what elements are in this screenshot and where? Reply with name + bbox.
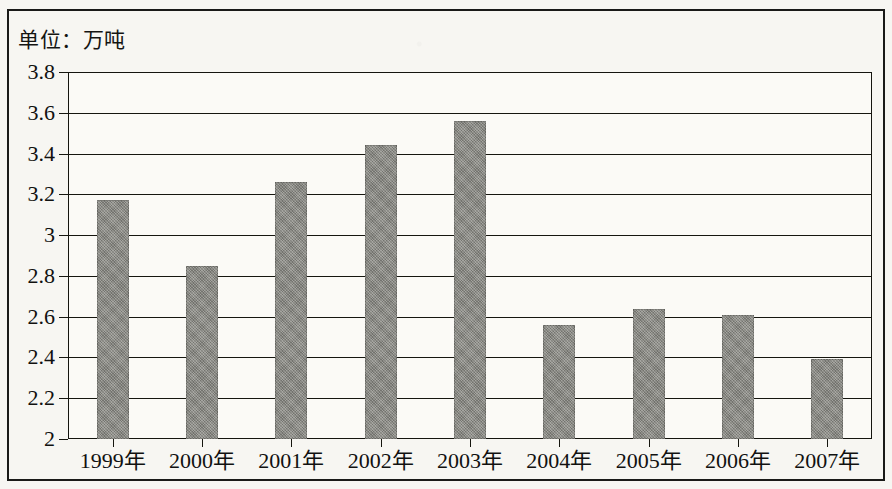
y-axis-label: 2	[44, 428, 55, 450]
x-axis-label: 2004年	[526, 447, 592, 475]
bar	[275, 182, 307, 439]
x-axis-label: 1999年	[80, 447, 146, 475]
x-axis-labels: 1999年2000年2001年2002年2003年2004年2005年2006年…	[68, 447, 872, 481]
x-axis-label: 2007年	[794, 447, 860, 475]
y-axis-label: 3.2	[28, 183, 56, 205]
bar	[186, 266, 218, 439]
y-axis-label: 2.8	[28, 265, 56, 287]
bar-chart-figure: 单位：万吨 3.83.63.43.232.82.62.42.22 1999年20…	[0, 0, 892, 489]
x-axis-tick	[113, 439, 114, 447]
y-axis-tick	[59, 72, 68, 73]
x-axis-tick	[559, 439, 560, 447]
bar	[543, 325, 575, 439]
y-axis-label: 2.6	[28, 306, 56, 328]
bar	[365, 145, 397, 439]
x-axis-tick	[202, 439, 203, 447]
x-axis-tick	[291, 439, 292, 447]
x-axis-tick	[649, 439, 650, 447]
y-axis-tick	[59, 317, 68, 318]
y-axis-tick	[59, 194, 68, 195]
bar	[633, 309, 665, 439]
x-axis-label: 2006年	[705, 447, 771, 475]
y-axis-tick	[59, 235, 68, 236]
bar	[811, 359, 843, 439]
x-axis-label: 2003年	[437, 447, 503, 475]
bar	[97, 200, 129, 439]
x-axis-label: 2005年	[616, 447, 682, 475]
x-axis-tick	[738, 439, 739, 447]
plot-area: 3.83.63.43.232.82.62.42.22	[68, 72, 872, 439]
y-axis-label: 2.2	[28, 387, 56, 409]
y-axis-label: 3	[44, 224, 55, 246]
unit-label: 单位：万吨	[18, 27, 126, 53]
gridline	[68, 113, 872, 114]
y-axis-tick	[59, 398, 68, 399]
x-axis-label: 2002年	[348, 447, 414, 475]
x-axis-tick	[470, 439, 471, 447]
y-axis-tick	[59, 276, 68, 277]
x-axis-tick	[381, 439, 382, 447]
x-axis-label: 2001年	[258, 447, 324, 475]
y-axis-tick	[59, 154, 68, 155]
x-axis-tick	[827, 439, 828, 447]
y-axis-tick	[59, 439, 68, 440]
y-axis-tick	[59, 113, 68, 114]
bar	[722, 315, 754, 439]
y-axis-label: 2.4	[28, 346, 56, 368]
y-axis-label: 3.6	[28, 102, 56, 124]
y-axis-label: 3.8	[28, 61, 56, 83]
y-axis-tick	[59, 357, 68, 358]
x-axis-label: 2000年	[169, 447, 235, 475]
y-axis-label: 3.4	[28, 143, 56, 165]
bar	[454, 121, 486, 439]
